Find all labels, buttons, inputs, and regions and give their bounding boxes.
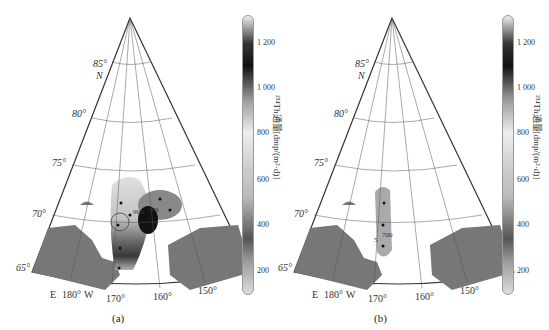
lon-label-w: W <box>346 289 355 300</box>
colorbar-tick: 1 000 <box>517 83 535 92</box>
lon-label-170: 170° <box>368 293 387 304</box>
contour-label-5: 5 <box>374 236 378 244</box>
lon-label-180: 180° <box>324 289 343 300</box>
polar-map-b <box>262 0 537 330</box>
lon-label-180: 180° <box>62 289 81 300</box>
colorbar-tick: 400 <box>517 220 529 229</box>
lat-label-85: 85° <box>355 58 369 69</box>
map-panel-a: 85° N 80° 75° 70° 65° E 180° W 170° 160°… <box>0 0 275 330</box>
lat-label-70: 70° <box>32 208 46 219</box>
map-panel-b: 85° N 80° 75° 70° 65° E 180° W 170° 160°… <box>262 0 537 330</box>
colorbar-title: ²³⁴Th通量[dmp/(m²·d)] <box>531 95 544 179</box>
lat-label-70: 70° <box>294 208 308 219</box>
lon-label-160: 160° <box>153 291 172 302</box>
lon-label-e: E <box>312 289 318 300</box>
colorbar-tick: 1 200 <box>517 38 535 47</box>
lon-label-e: E <box>50 289 56 300</box>
lat-label-n: N <box>358 70 365 81</box>
colorbar-tick: 200 <box>517 266 529 275</box>
lon-label-160: 160° <box>415 291 434 302</box>
lat-label-75: 75° <box>52 157 66 168</box>
colorbar-tick: 800 <box>517 128 529 137</box>
lat-label-65: 65° <box>278 262 292 273</box>
colorbar-b <box>502 15 514 295</box>
lat-label-75: 75° <box>314 157 328 168</box>
lon-label-150: 150° <box>198 285 217 296</box>
lon-label-170: 170° <box>106 293 125 304</box>
contour-label-700: 700 <box>382 231 393 239</box>
lon-label-w: W <box>84 289 93 300</box>
lat-label-85: 85° <box>93 58 107 69</box>
panel-caption-a: (a) <box>112 312 124 324</box>
colorbar-tick: 600 <box>517 175 529 184</box>
lon-label-150: 150° <box>460 285 479 296</box>
contour-label-700: 700 <box>148 206 159 214</box>
lat-label-65: 65° <box>16 262 30 273</box>
colorbar-a <box>242 15 254 295</box>
contour-label-900: 900 <box>133 208 144 216</box>
lat-label-n: N <box>96 70 103 81</box>
polar-map-a <box>0 0 275 330</box>
lat-label-80: 80° <box>72 108 86 119</box>
lat-label-80: 80° <box>334 108 348 119</box>
panel-caption-b: (b) <box>374 312 387 324</box>
